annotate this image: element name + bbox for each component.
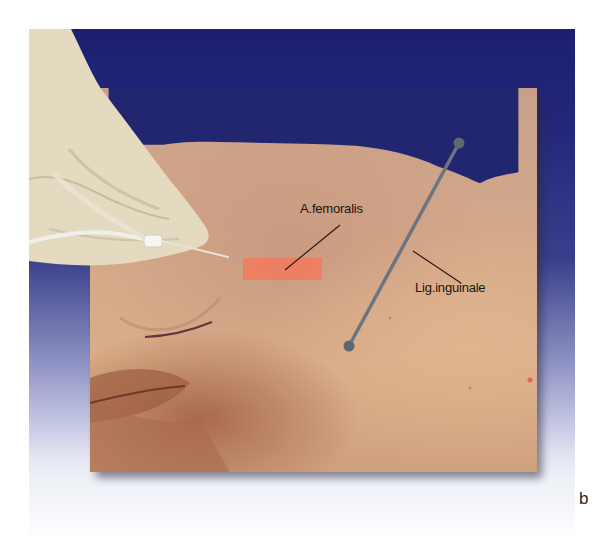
inguinal-ligament-line xyxy=(349,143,459,346)
figure-panel-b: A.femoralis Lig.inguinale b xyxy=(0,0,606,540)
label-a-femoralis: A.femoralis xyxy=(300,201,363,216)
inguinale-leader-line xyxy=(413,251,461,283)
femoral-marker xyxy=(243,258,322,280)
annotation-layer xyxy=(0,0,606,540)
ligament-end-dot-bottom xyxy=(344,341,355,352)
ligament-end-dot-top xyxy=(454,138,465,149)
panel-letter: b xyxy=(579,489,588,509)
label-lig-inguinale: Lig.inguinale xyxy=(415,280,485,295)
